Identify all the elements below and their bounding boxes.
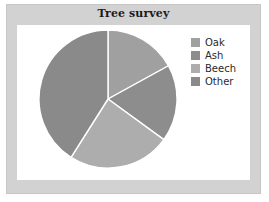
legend-label: Other — [205, 75, 233, 88]
legend-label: Ash — [205, 49, 223, 62]
legend-swatch-icon — [191, 77, 200, 86]
chart-frame: Tree survey OakAshBeechOther — [6, 4, 261, 194]
chart-legend: OakAshBeechOther — [191, 36, 249, 88]
legend-item: Beech — [191, 62, 249, 75]
pie-svg — [38, 29, 178, 169]
legend-item: Oak — [191, 36, 249, 49]
chart-title: Tree survey — [6, 7, 261, 21]
legend-item: Ash — [191, 49, 249, 62]
legend-item: Other — [191, 75, 249, 88]
plot-panel: OakAshBeechOther — [17, 25, 250, 180]
legend-swatch-icon — [191, 38, 200, 47]
legend-label: Oak — [205, 36, 225, 49]
legend-label: Beech — [205, 62, 236, 75]
pie-slice-group — [39, 30, 177, 168]
legend-swatch-icon — [191, 64, 200, 73]
screenshot-root: Tree survey OakAshBeechOther — [0, 0, 269, 202]
legend-swatch-icon — [191, 51, 200, 60]
pie-chart — [38, 29, 178, 169]
